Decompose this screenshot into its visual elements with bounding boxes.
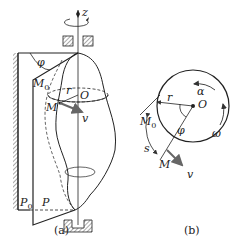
label-o-b: O <box>198 98 207 111</box>
figure-a: z φ M0 r O M v P0 P (a) <box>13 6 116 237</box>
figure-b: O α ω M0 r φ s M v (b) <box>139 70 229 237</box>
omega-arrow <box>220 104 224 125</box>
lower-ellipse <box>65 167 95 177</box>
label-phi: φ <box>37 56 45 69</box>
rotating-body <box>56 53 116 210</box>
top-bearing-left <box>63 36 73 46</box>
label-m-b: M <box>158 158 171 171</box>
label-phi-b: φ <box>177 124 185 137</box>
label-s: s <box>144 142 150 155</box>
meridian-dashed <box>45 60 75 210</box>
phi-arc <box>180 104 186 117</box>
label-m: M <box>45 101 58 114</box>
label-r: r <box>66 84 72 97</box>
label-v: v <box>82 112 89 125</box>
label-m0: M0 <box>32 77 49 92</box>
radius-r <box>157 102 193 106</box>
caption-b: (b) <box>184 224 200 237</box>
top-bearing-right <box>83 36 93 46</box>
label-o: O <box>80 89 89 102</box>
label-p: P <box>41 196 50 209</box>
label-r-b: r <box>167 91 173 104</box>
velocity-vector <box>60 103 82 112</box>
label-m0-b: M0 <box>139 115 156 130</box>
label-v-b: v <box>187 168 194 181</box>
label-omega: ω <box>212 127 221 140</box>
diagram-canvas: z φ M0 r O M v P0 P (a) O α ω M0 <box>0 0 242 243</box>
label-p0: P0 <box>19 196 33 211</box>
label-z: z <box>81 6 88 19</box>
rotation-arrow <box>64 19 88 26</box>
label-alpha: α <box>197 85 205 98</box>
caption-a: (a) <box>54 224 69 237</box>
